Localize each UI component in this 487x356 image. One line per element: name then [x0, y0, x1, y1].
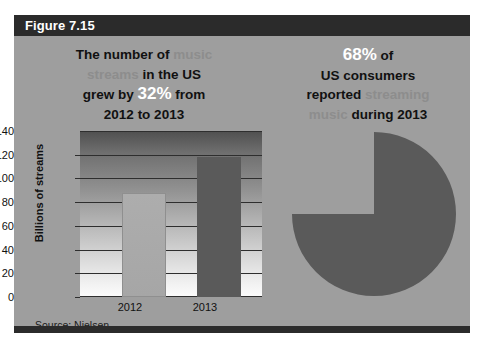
- right-headline-highlight-music: music: [309, 107, 348, 122]
- figure-footer-bar: [14, 326, 470, 333]
- y-tick-label-0: 0: [0, 291, 14, 303]
- gridline-120: [80, 155, 262, 156]
- right-headline-text-2: US consumers: [321, 68, 416, 83]
- bar-chart: Billions of streams 140 120 100 80 60: [14, 125, 266, 326]
- gridline-140: [80, 131, 262, 132]
- y-tick-label-40: 40: [0, 244, 14, 256]
- headline-stat-68: 68%: [343, 45, 377, 64]
- y-tick-label-120: 120: [0, 149, 14, 161]
- pie-slice-streaming-68: [292, 132, 456, 296]
- headline-highlight-streams: streams: [87, 67, 139, 82]
- right-headline-text-1: of: [377, 48, 394, 63]
- headline-text-3: grew by: [83, 87, 138, 102]
- y-tick-label-60: 60: [0, 220, 14, 232]
- right-headline-text-4: during 2013: [348, 107, 428, 122]
- pie-chart: [292, 132, 456, 296]
- right-panel: 68% of US consumers reported streaming m…: [266, 36, 470, 326]
- y-tick-label-100: 100: [0, 172, 14, 184]
- tick-mark-120: [75, 155, 80, 156]
- y-tick-label-80: 80: [0, 196, 14, 208]
- tick-mark-100: [75, 178, 80, 179]
- x-label-2012: 2012: [100, 301, 160, 313]
- headline-text-2: in the US: [139, 67, 201, 82]
- right-headline-text-3: reported: [306, 87, 365, 102]
- pie-chart-svg: [292, 132, 456, 296]
- headline-text-4: from: [172, 87, 206, 102]
- headline-text-5: 2012 to 2013: [104, 107, 184, 122]
- left-panel: The number of music streams in the US gr…: [14, 36, 266, 326]
- right-headline-highlight-streaming: streaming: [365, 87, 430, 102]
- figure-container: Figure 7.15 The number of music streams …: [14, 15, 470, 333]
- y-tick-label-20: 20: [0, 267, 14, 279]
- right-headline: 68% of US consumers reported streaming m…: [272, 45, 464, 124]
- bar-2013: [197, 157, 241, 297]
- headline-highlight-music: music: [173, 47, 212, 62]
- headline-stat-32: 32%: [137, 84, 171, 103]
- headline-text-1: The number of: [76, 47, 174, 62]
- x-label-2013: 2013: [175, 301, 235, 313]
- left-headline: The number of music streams in the US gr…: [32, 45, 256, 124]
- figure-label: Figure 7.15: [25, 18, 95, 33]
- tick-mark-60: [75, 226, 80, 227]
- y-tick-label-140: 140: [0, 125, 14, 137]
- tick-mark-20: [75, 273, 80, 274]
- tick-mark-0: [75, 297, 80, 298]
- tick-mark-80: [75, 202, 80, 203]
- y-axis-title: Billions of streams: [33, 123, 45, 263]
- plot-area: [80, 131, 262, 297]
- tick-mark-40: [75, 250, 80, 251]
- bar-2012: [122, 193, 166, 297]
- figure-header-bar: Figure 7.15: [14, 15, 470, 36]
